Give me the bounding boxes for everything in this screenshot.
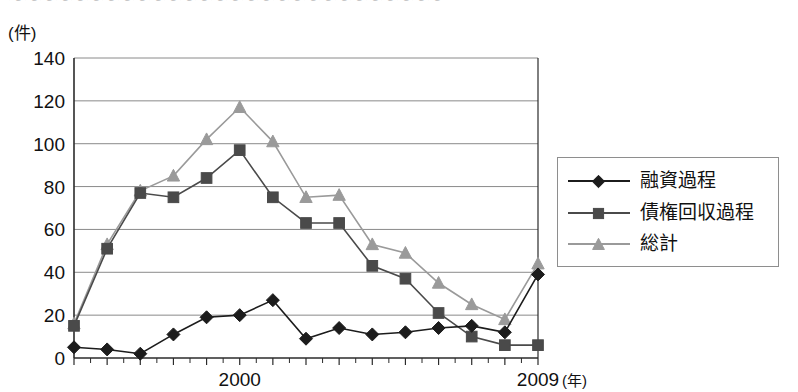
series-triangle — [68, 101, 544, 329]
y-tick-label: 140 — [33, 48, 65, 69]
data-point — [465, 319, 478, 332]
data-point — [168, 192, 179, 203]
legend-item-2: 総計 — [568, 229, 678, 259]
legend-label-1: 債権回収過程 — [640, 202, 754, 224]
data-point — [101, 343, 114, 356]
y-tick-label: 120 — [33, 91, 65, 112]
chart-legend: 融資過程 債権回収過程 総計 — [557, 157, 779, 267]
y-axis-ticks: 020406080100120140 — [33, 48, 65, 369]
legend-marker-triangle-icon — [568, 233, 630, 255]
legend-label-2: 総計 — [640, 233, 678, 255]
data-point — [532, 257, 544, 269]
legend-item-1: 債権回収過程 — [568, 198, 754, 228]
data-point — [399, 326, 412, 339]
data-point — [268, 192, 279, 203]
data-point — [68, 341, 81, 354]
gridlines — [74, 58, 538, 358]
data-point — [301, 218, 312, 229]
x-axis-labels: 20002009(年) — [219, 369, 587, 390]
data-point — [498, 326, 511, 339]
y-tick-label: 40 — [44, 262, 65, 283]
data-point — [234, 145, 245, 156]
data-point — [334, 218, 345, 229]
data-point — [135, 188, 146, 199]
data-point — [200, 311, 213, 324]
y-tick-label: 60 — [44, 219, 65, 240]
y-tick-label: 0 — [54, 348, 65, 369]
legend-label-0: 融資過程 — [640, 170, 716, 192]
legend-marker-square-icon — [568, 202, 630, 224]
legend-marker-diamond-icon — [568, 170, 630, 192]
y-tick-label: 100 — [33, 134, 65, 155]
data-point — [167, 328, 180, 341]
series-diamond — [68, 268, 545, 360]
legend-item-0: 融資過程 — [568, 166, 716, 196]
data-point — [432, 322, 445, 335]
data-point — [500, 340, 511, 351]
x-tick-label-2000: 2000 — [219, 369, 261, 390]
data-point — [234, 101, 246, 113]
data-point — [102, 243, 113, 254]
x-axis-ticks — [74, 358, 538, 365]
chart-page: 〜〜〜〜〜〜〜〜〜〜〜〜〜〜〜〜〜〜〜〜〜〜〜〜〜〜〜〜 (件) 0204060… — [0, 0, 798, 392]
y-tick-label: 20 — [44, 305, 65, 326]
data-point — [433, 308, 444, 319]
data-point — [400, 273, 411, 284]
data-point — [466, 298, 478, 310]
data-point — [201, 173, 212, 184]
data-point — [69, 321, 80, 332]
data-point — [366, 328, 379, 341]
y-tick-label: 80 — [44, 177, 65, 198]
x-tick-label-2009: 2009 — [517, 369, 559, 390]
data-point — [366, 238, 378, 250]
data-point — [533, 340, 544, 351]
x-axis-unit-label: (年) — [562, 372, 587, 389]
data-point — [333, 322, 346, 335]
data-point — [333, 189, 345, 201]
data-point — [367, 261, 378, 272]
data-series — [68, 101, 545, 360]
data-point — [233, 309, 246, 322]
